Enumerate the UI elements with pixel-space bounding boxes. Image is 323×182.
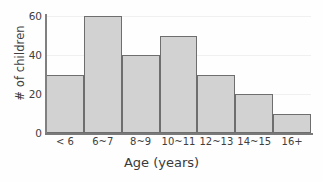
bar-slot xyxy=(197,16,235,133)
x-tick-label: 16+ xyxy=(273,136,311,147)
bar-slot xyxy=(235,16,273,133)
x-tick-label: 6~7 xyxy=(84,136,122,147)
histogram-chart: # of children 60 40 20 0 < 66~78~910~111… xyxy=(0,0,323,182)
x-tick-label: 8~9 xyxy=(122,136,160,147)
bar-slot xyxy=(160,16,198,133)
bar-slot xyxy=(273,16,311,133)
y-tick-label: 40 xyxy=(22,50,42,61)
bar xyxy=(197,75,235,134)
plot-inner xyxy=(46,16,311,133)
x-tick-label: 14~15 xyxy=(235,136,273,147)
x-tick-label: 12~13 xyxy=(197,136,235,147)
bar xyxy=(273,114,311,133)
bar xyxy=(235,94,273,133)
x-tick-label: 10~11 xyxy=(160,136,198,147)
x-axis-line xyxy=(45,133,313,135)
x-tick-label: < 6 xyxy=(46,136,84,147)
bar xyxy=(84,16,122,133)
bar xyxy=(122,55,160,133)
bar-slot xyxy=(122,16,160,133)
bar xyxy=(160,36,198,134)
x-axis-tick-labels: < 66~78~910~1112~1314~1516+ xyxy=(46,136,311,147)
bar-slot xyxy=(46,16,84,133)
plot-area xyxy=(46,16,311,133)
bar-slot xyxy=(84,16,122,133)
x-axis-label: Age (years) xyxy=(0,155,323,170)
y-tick-label: 0 xyxy=(22,128,42,139)
y-tick-label: 20 xyxy=(22,89,42,100)
bar-series xyxy=(46,16,311,133)
y-axis-line xyxy=(45,14,47,135)
bar xyxy=(46,75,84,134)
y-tick-label: 60 xyxy=(22,11,42,22)
